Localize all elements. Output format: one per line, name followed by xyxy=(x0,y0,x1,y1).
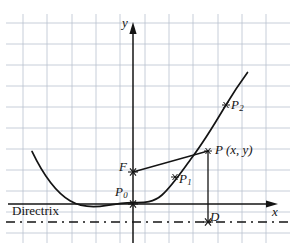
focus-label: F xyxy=(119,160,127,173)
x-axis-label: x xyxy=(272,205,278,218)
foot-point-label-d: D xyxy=(210,210,219,223)
p2-label-base: P xyxy=(231,97,239,112)
point-markers-layer xyxy=(128,102,230,226)
vertex-label-p0: P0 xyxy=(115,185,128,200)
vertex-label-base: P xyxy=(115,184,123,199)
vertex-label-subscript: 0 xyxy=(123,190,128,200)
p2-label-subscript: 2 xyxy=(239,103,244,113)
parabola-figure: y x F P0 P1 P2 P (x, y) D Directrix xyxy=(0,0,296,249)
parabola-curve-path xyxy=(32,73,248,207)
parabola-layer xyxy=(32,73,248,207)
focal-radius-segment xyxy=(133,151,208,172)
point-label-p2: P2 xyxy=(231,98,244,113)
p1-label-subscript: 1 xyxy=(187,177,192,187)
y-axis-label: y xyxy=(122,16,128,29)
point-label-p1: P1 xyxy=(179,172,192,187)
grid-vertical-lines xyxy=(23,14,266,243)
directrix-label: Directrix xyxy=(12,204,59,217)
p1-label-base: P xyxy=(179,171,187,186)
y-axis-arrowhead xyxy=(129,22,136,34)
general-point-label: P (x, y) xyxy=(215,143,253,156)
